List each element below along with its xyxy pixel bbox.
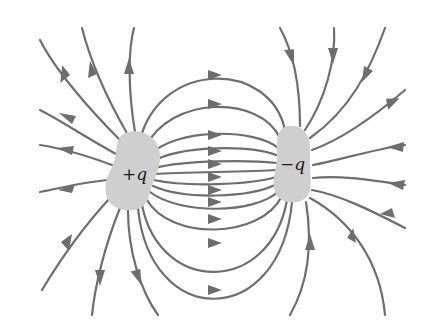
positive-charge: +q (106, 131, 161, 210)
connecting-arrows (208, 70, 222, 295)
positive-charge-label: +q (122, 164, 147, 184)
negative-charge: −q (274, 126, 311, 203)
field-lines-svg: +q −q (0, 0, 432, 336)
negative-charge-label: −q (280, 154, 305, 174)
dipole-diagram: +q −q (0, 0, 432, 336)
